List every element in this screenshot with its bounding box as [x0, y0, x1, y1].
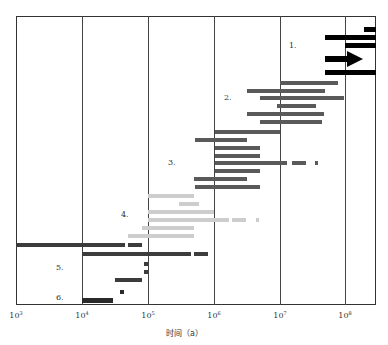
range-bar	[232, 218, 246, 222]
gridline	[148, 16, 149, 305]
range-bar	[215, 130, 280, 134]
range-bar	[215, 169, 260, 173]
range-bar	[280, 81, 338, 85]
group-label: 3.	[168, 158, 176, 167]
range-bar	[148, 218, 229, 222]
x-tick-label: 105	[141, 311, 154, 320]
range-bar	[148, 210, 214, 214]
range-bar	[247, 112, 324, 116]
range-bar	[215, 154, 260, 158]
range-bar	[82, 298, 113, 303]
range-bar	[194, 177, 247, 181]
range-bar	[325, 35, 376, 40]
range-bar	[144, 270, 148, 274]
range-bar	[194, 252, 208, 256]
range-bar	[115, 278, 142, 282]
x-tick-label: 103	[9, 311, 22, 320]
chart: 1.2.3.4.5.6. 103104105106107108 时间（a）	[0, 0, 388, 345]
range-bar	[179, 202, 199, 206]
range-bar	[82, 252, 191, 256]
group-label: 2.	[224, 93, 232, 102]
range-bar	[292, 161, 306, 165]
range-bar	[128, 243, 142, 247]
range-bar	[195, 138, 247, 142]
range-bar	[345, 43, 376, 48]
group-label: 5.	[56, 263, 64, 272]
range-bar	[260, 120, 322, 124]
range-bar	[120, 290, 124, 294]
group-label: 1.	[289, 41, 297, 50]
range-bar	[277, 104, 316, 108]
range-bar	[215, 146, 260, 150]
x-tick-label: 107	[273, 311, 286, 320]
plot-frame	[16, 16, 376, 305]
arrowhead-icon	[347, 51, 363, 67]
range-bar	[16, 243, 125, 247]
range-bar	[144, 262, 148, 266]
x-tick-label: 106	[207, 311, 220, 320]
gridline	[82, 16, 83, 305]
range-bar	[325, 56, 349, 62]
range-bar	[247, 89, 325, 93]
x-axis-label: 时间（a）	[166, 327, 203, 338]
x-tick-label: 108	[338, 311, 351, 320]
range-bar	[142, 226, 194, 230]
range-bar	[315, 161, 318, 165]
range-bar	[195, 185, 260, 189]
range-bar	[215, 161, 287, 165]
range-bar	[256, 218, 259, 222]
range-bar	[364, 27, 376, 32]
range-bar	[148, 194, 194, 198]
group-label: 6.	[56, 293, 64, 302]
range-bar	[128, 234, 194, 238]
group-label: 4.	[121, 210, 129, 219]
range-bar	[325, 70, 376, 75]
range-bar	[260, 96, 344, 100]
x-tick-label: 104	[75, 311, 88, 320]
